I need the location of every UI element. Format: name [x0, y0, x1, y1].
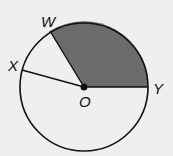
center-point — [81, 84, 88, 91]
label-y: Y — [153, 80, 164, 97]
label-x: X — [7, 57, 19, 74]
label-o: O — [79, 93, 91, 110]
label-w: W — [41, 13, 57, 30]
circle-diagram: W X Y O — [0, 0, 173, 156]
